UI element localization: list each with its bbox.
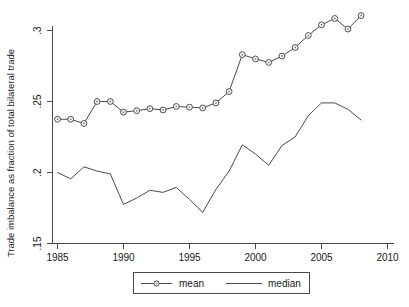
- x-tick-label-2: 1995: [178, 252, 201, 263]
- x-tick-label-0: 1985: [46, 252, 69, 263]
- data-point-mean-center: [321, 24, 323, 26]
- y-tick-label-1: .2: [32, 168, 43, 177]
- data-point-mean-center: [202, 107, 204, 109]
- data-point-mean-center: [215, 102, 217, 104]
- data-point-mean-center: [162, 109, 164, 111]
- y-tick-label-0: .15: [32, 236, 43, 250]
- legend-label-mean: mean: [179, 278, 204, 289]
- data-point-mean-center: [294, 47, 296, 49]
- data-point-mean-center: [241, 54, 243, 56]
- data-point-mean-center: [347, 28, 349, 30]
- data-point-mean-center: [307, 34, 309, 36]
- data-point-mean-center: [360, 15, 362, 17]
- x-tick-label-4: 2005: [310, 252, 333, 263]
- data-point-mean-center: [268, 61, 270, 63]
- data-point-mean-center: [109, 101, 111, 103]
- x-tick-label-3: 2000: [244, 252, 267, 263]
- data-point-mean-center: [189, 106, 191, 108]
- legend-marker-mean-dot-icon: [156, 283, 158, 285]
- chart-figure: Trade imbalance as fraction of total bil…: [0, 0, 409, 307]
- x-tick-label-1: 1990: [112, 252, 135, 263]
- y-tick-label-3: .3: [32, 26, 43, 35]
- data-point-mean-center: [57, 118, 59, 120]
- data-point-mean-center: [96, 101, 98, 103]
- data-point-mean-center: [175, 105, 177, 107]
- chart-legend: mean median: [134, 273, 310, 294]
- data-point-mean-center: [334, 17, 336, 19]
- data-point-mean-center: [281, 55, 283, 57]
- chart-svg: Trade imbalance as fraction of total bil…: [0, 0, 409, 307]
- legend-label-median: median: [268, 278, 301, 289]
- data-point-mean-center: [136, 110, 138, 112]
- y-axis-label: Trade imbalance as fraction of total bil…: [5, 49, 16, 257]
- data-point-mean-center: [228, 91, 230, 93]
- data-point-mean-center: [149, 108, 151, 110]
- data-point-mean-center: [123, 111, 125, 113]
- y-tick-label-2: .25: [32, 94, 43, 108]
- x-tick-label-5: 2010: [376, 252, 399, 263]
- data-point-mean-center: [70, 118, 72, 120]
- data-point-mean-center: [83, 123, 85, 125]
- data-point-mean-center: [255, 58, 257, 60]
